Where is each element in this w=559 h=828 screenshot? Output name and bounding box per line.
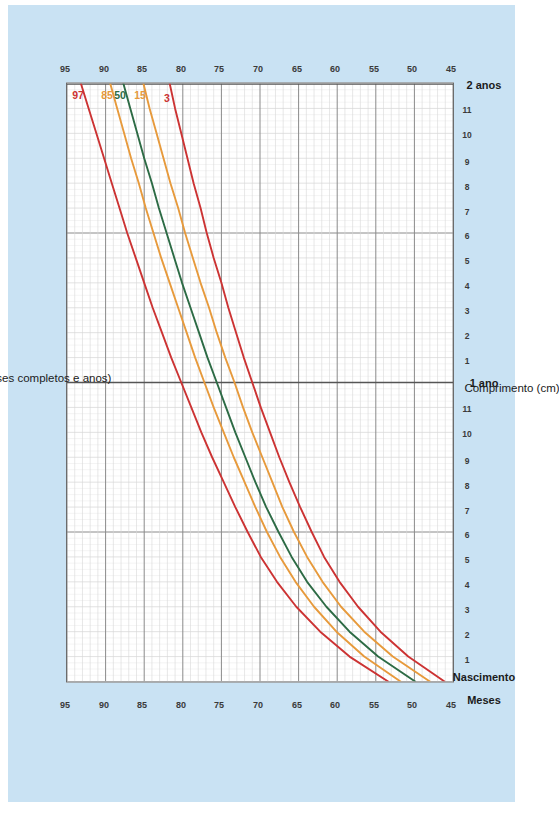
percentile-label-50: 50 — [114, 88, 126, 100]
length-tick-65: 65 — [291, 700, 301, 710]
month-tick-19: 7 — [464, 206, 469, 216]
length-tick-55: 55 — [368, 700, 378, 710]
month-tick-21: 9 — [464, 156, 469, 166]
length-tick-50: 50 — [407, 700, 417, 710]
length-tick-60: 60 — [330, 64, 340, 74]
curve-layer — [67, 83, 453, 681]
month-tick-9: 9 — [464, 455, 469, 465]
month-tick-14: 2 — [464, 331, 469, 341]
length-tick-55: 55 — [368, 64, 378, 74]
month-tick-13: 1 — [464, 356, 469, 366]
month-tick-16: 4 — [464, 281, 469, 291]
months-axis-label: Meses — [467, 693, 501, 705]
month-tick-17: 5 — [464, 256, 469, 266]
length-tick-90: 90 — [98, 64, 108, 74]
length-tick-70: 70 — [252, 700, 262, 710]
length-tick-45: 45 — [445, 64, 455, 74]
length-tick-80: 80 — [175, 700, 185, 710]
length-tick-45: 45 — [445, 700, 455, 710]
month-tick-22: 10 — [462, 129, 471, 139]
length-tick-75: 75 — [214, 700, 224, 710]
month-tick-20: 8 — [464, 181, 469, 191]
year2-label: 2 anos — [466, 79, 501, 91]
percentile-label-3: 3 — [163, 91, 169, 103]
month-tick-10: 10 — [462, 428, 471, 438]
length-tick-75: 75 — [214, 64, 224, 74]
length-tick-85: 85 — [137, 64, 147, 74]
length-tick-70: 70 — [252, 64, 262, 74]
month-tick-3: 3 — [464, 605, 469, 615]
chart-stage: 9590858075706560555045 95908580757065605… — [42, 57, 482, 750]
month-tick-11: 11 — [462, 403, 471, 413]
month-tick-15: 3 — [464, 306, 469, 316]
length-tick-80: 80 — [175, 64, 185, 74]
percentile-curves-svg — [67, 83, 453, 681]
month-tick-4: 4 — [464, 580, 469, 590]
month-tick-6: 6 — [464, 530, 469, 540]
plot-area — [66, 82, 454, 682]
chart-card: 9590858075706560555045 95908580757065605… — [8, 5, 515, 802]
length-tick-95: 95 — [59, 64, 69, 74]
percentile-label-15: 15 — [134, 88, 146, 100]
length-tick-90: 90 — [98, 700, 108, 710]
month-tick-2: 2 — [464, 630, 469, 640]
month-tick-18: 6 — [464, 231, 469, 241]
month-tick-8: 8 — [464, 480, 469, 490]
percentile-label-85: 85 — [101, 88, 113, 100]
length-tick-85: 85 — [137, 700, 147, 710]
length-tick-65: 65 — [291, 64, 301, 74]
month-tick-7: 7 — [464, 505, 469, 515]
length-tick-60: 60 — [330, 700, 340, 710]
birth-label: Nascimento — [452, 671, 514, 683]
month-tick-5: 5 — [464, 555, 469, 565]
y-axis-title: Comprimento (cm) — [464, 381, 559, 393]
percentile-label-97: 97 — [72, 88, 84, 100]
month-tick-1: 1 — [464, 655, 469, 665]
x-axis-title: Idade (meses completos e anos) — [0, 372, 111, 384]
length-tick-95: 95 — [59, 700, 69, 710]
month-tick-23: 11 — [462, 104, 471, 114]
length-tick-50: 50 — [407, 64, 417, 74]
